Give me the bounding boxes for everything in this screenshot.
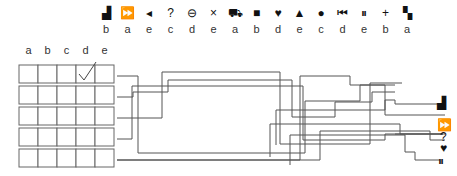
grid-cell[interactable] (19, 86, 38, 104)
grid-cell[interactable] (19, 128, 38, 146)
grid-cell[interactable] (76, 128, 95, 146)
grid-cell[interactable] (38, 128, 57, 146)
grid-cell[interactable] (76, 107, 95, 125)
heart-icon: ♥ (440, 142, 447, 154)
grid-cell[interactable] (95, 107, 114, 125)
grid-cell[interactable] (95, 65, 114, 83)
grid-cell[interactable] (19, 107, 38, 125)
grid-cell[interactable] (38, 149, 57, 167)
grid-cell[interactable] (57, 86, 76, 104)
wire (117, 76, 445, 160)
wire (117, 76, 395, 153)
diagram (0, 0, 457, 176)
grid-cell[interactable] (95, 86, 114, 104)
grid-cell[interactable] (95, 149, 114, 167)
wires (117, 72, 445, 165)
grid-cell[interactable] (38, 86, 57, 104)
grid-cell[interactable] (57, 65, 76, 83)
pause-icon: ⏸ (438, 155, 444, 167)
grid-cell[interactable] (76, 149, 95, 167)
grid-cell[interactable] (19, 149, 38, 167)
grid-cell[interactable] (57, 128, 76, 146)
grid-cell[interactable] (38, 65, 57, 83)
wire (276, 100, 445, 145)
grid-cell[interactable] (19, 65, 38, 83)
wire (117, 72, 402, 144)
grid-cell[interactable] (76, 86, 95, 104)
grid-cell[interactable] (57, 107, 76, 125)
factory-icon: ▟ (437, 97, 446, 109)
grid-cell[interactable] (95, 128, 114, 146)
grid-cell[interactable] (38, 107, 57, 125)
grid-cell[interactable] (57, 149, 76, 167)
answer-grid (19, 62, 114, 167)
